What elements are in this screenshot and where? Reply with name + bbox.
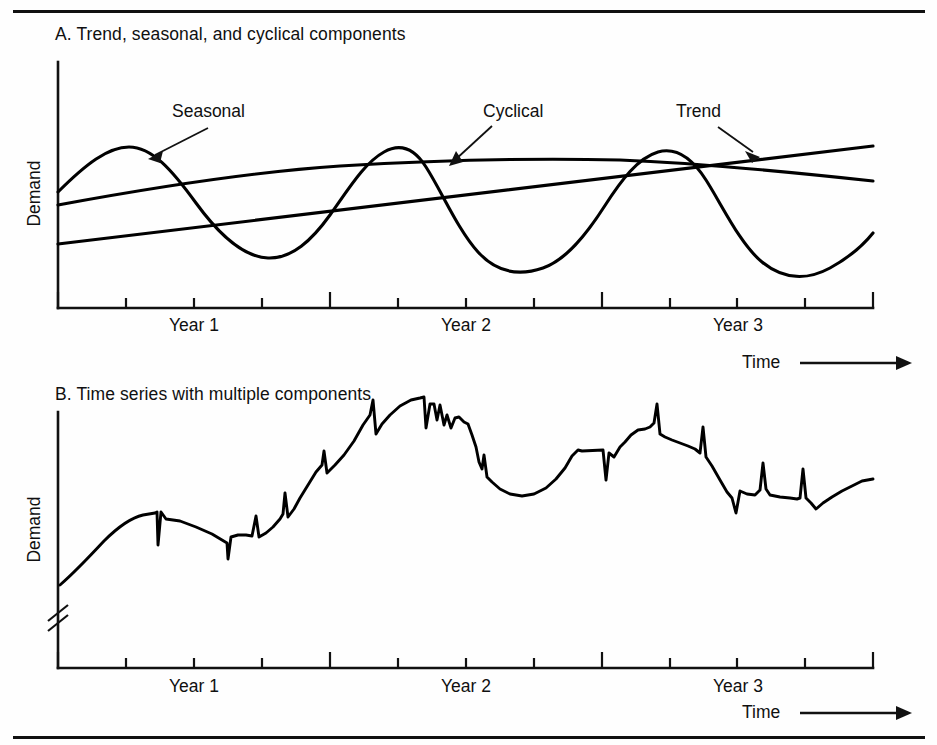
panel-b-time-arrow bbox=[0, 0, 937, 745]
figure-canvas: A. Trend, seasonal, and cyclical compone… bbox=[0, 0, 937, 745]
